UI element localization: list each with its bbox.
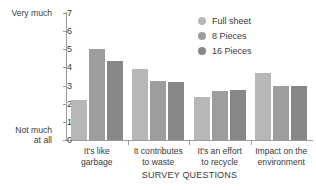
bar: [255, 73, 271, 140]
category-separator: [251, 141, 252, 145]
legend: Full sheet8 Pieces16 Pieces: [198, 14, 252, 59]
bar: [150, 81, 166, 140]
y-axis-low-label: Not much at all: [0, 125, 52, 145]
legend-item[interactable]: Full sheet: [198, 14, 252, 28]
bar: [89, 49, 105, 140]
bar-group-bars: [128, 13, 190, 140]
category-separator: [189, 141, 190, 145]
y-tick-mark-0: [63, 140, 67, 141]
x-axis-category-label: Impact on the environment: [251, 146, 313, 167]
bar: [71, 100, 87, 140]
legend-item[interactable]: 16 Pieces: [198, 44, 252, 58]
bar-group: [251, 13, 313, 140]
bar-group-bars: [251, 13, 313, 140]
x-axis-category-label: It's like garbage: [66, 146, 128, 167]
legend-item[interactable]: 8 Pieces: [198, 29, 252, 43]
legend-label: 16 Pieces: [212, 46, 252, 56]
legend-marker-circle-icon: [198, 17, 206, 25]
bar-group-bars: [66, 13, 128, 140]
bar: [194, 97, 210, 140]
plot-area: [66, 13, 312, 140]
bar: [132, 69, 148, 140]
legend-label: 8 Pieces: [212, 31, 247, 41]
bar-group: [66, 13, 128, 140]
legend-marker-circle-icon: [198, 32, 206, 40]
y-axis-high-label: Very much: [0, 8, 52, 18]
bar: [230, 90, 246, 140]
bar: [273, 86, 289, 140]
legend-marker-circle-icon: [198, 47, 206, 55]
bar: [107, 61, 123, 140]
x-axis-category-label: It's an effort to recycle: [189, 146, 251, 167]
bar: [168, 82, 184, 140]
category-separator: [128, 141, 129, 145]
x-axis-category-label: It contributes to waste: [128, 146, 190, 167]
bar-group: [128, 13, 190, 140]
x-axis-title: SURVEY QUESTIONS: [66, 170, 313, 180]
legend-label: Full sheet: [212, 16, 251, 26]
bar-chart: Very much Not much at all 01234567 It's …: [0, 0, 316, 190]
bar: [291, 86, 307, 140]
bar: [212, 91, 228, 140]
